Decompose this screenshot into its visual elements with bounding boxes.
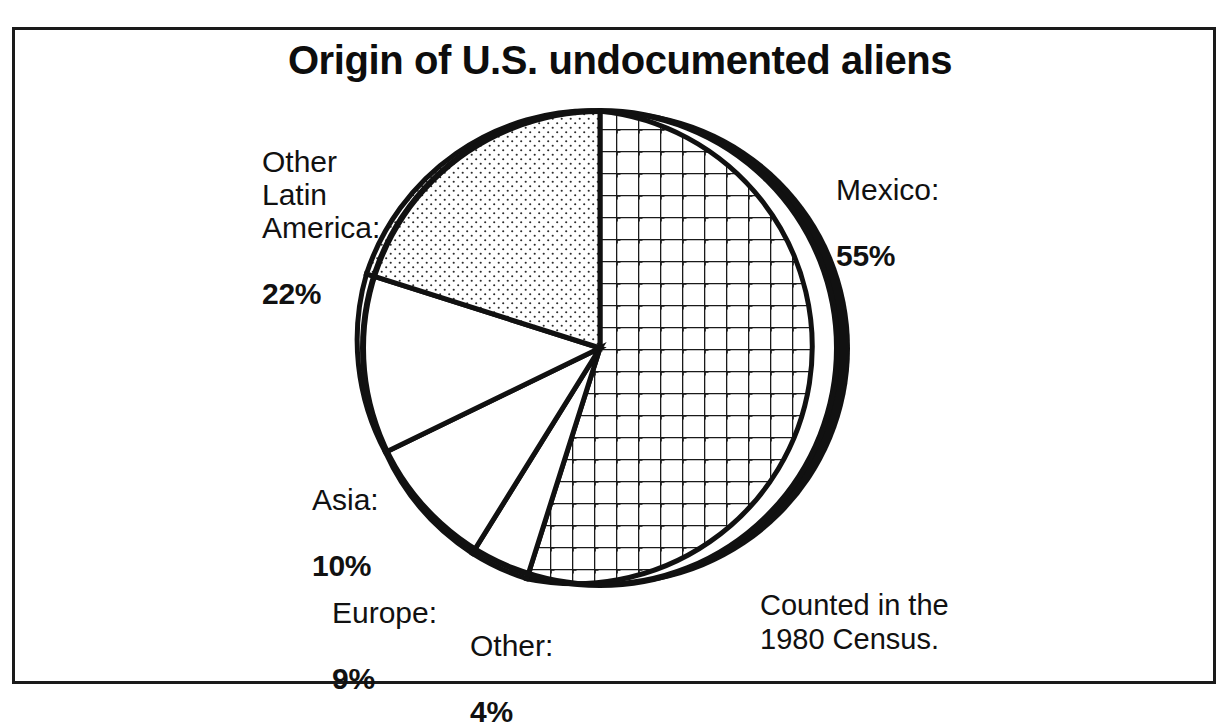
chart-title: Origin of U.S. undocumented aliens	[60, 40, 1180, 80]
chart-footnote: Counted in the 1980 Census.	[760, 588, 949, 656]
slice-label-name: Other Latin America:	[262, 145, 380, 244]
slice-label-name: Europe:	[332, 596, 437, 629]
slice-label-value: 4%	[470, 695, 553, 726]
pie-chart-graphic	[330, 85, 875, 605]
slice-label-other: Other: 4%	[470, 596, 553, 726]
slice-label-name: Asia:	[312, 483, 379, 516]
slice-label-mexico: Mexico: 55%	[836, 140, 939, 305]
slice-label-europe: Europe: 9%	[332, 563, 437, 726]
slice-label-value: 22%	[262, 277, 380, 310]
slice-label-value: 9%	[332, 662, 437, 695]
slice-label-name: Other:	[470, 629, 553, 662]
slice-label-other-latin-america: Other Latin America: 22%	[262, 112, 380, 343]
slice-label-name: Mexico:	[836, 173, 939, 206]
slice-label-value: 55%	[836, 239, 939, 272]
